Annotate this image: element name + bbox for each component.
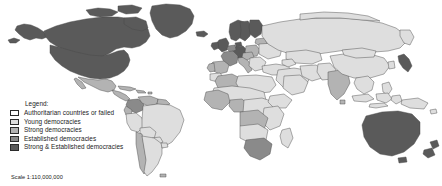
legend-item-established-democracies: Established democracies xyxy=(10,135,160,144)
legend-item-authoritarian: Authoritarian countries or failed xyxy=(10,109,160,118)
region-horn-of-africa xyxy=(268,94,292,108)
region-new-zealand-south xyxy=(423,148,435,158)
legend-swatch-established-democracies xyxy=(10,136,19,142)
legend-label-strong-democracies: Strong democracies xyxy=(24,126,82,135)
legend-label-authoritarian: Authoritarian countries or failed xyxy=(24,109,114,118)
legend-label-strong-established-democracies: Strong & Established democracies xyxy=(24,143,123,152)
region-madagascar xyxy=(280,128,293,148)
region-portugal xyxy=(207,63,215,72)
legend-title: Legend: xyxy=(25,100,160,108)
region-greenland xyxy=(150,4,194,38)
region-papua-new-guinea xyxy=(401,98,428,109)
legend-label-established-democracies: Established democracies xyxy=(24,135,96,144)
region-indonesia-sulawesi xyxy=(391,95,402,104)
world-map-graphic xyxy=(0,0,442,186)
legend-swatch-young-democracies xyxy=(10,119,19,125)
region-alaska xyxy=(15,24,47,40)
region-hispaniola xyxy=(136,90,146,93)
region-finland xyxy=(249,20,263,38)
region-new-zealand-north xyxy=(430,140,439,149)
region-south-africa xyxy=(244,138,272,160)
legend-item-strong-democracies: Strong democracies xyxy=(10,126,160,135)
region-indonesia-sumatra xyxy=(352,94,374,102)
region-uruguay xyxy=(161,143,168,148)
legend-item-young-democracies: Young democracies xyxy=(10,118,160,127)
region-fiji-pacific xyxy=(430,109,437,114)
map-legend: Legend: Authoritarian countries or faile… xyxy=(10,100,160,152)
region-korea xyxy=(388,61,395,69)
region-australia xyxy=(362,111,420,156)
region-asia xyxy=(262,12,414,104)
region-aleutians xyxy=(8,38,20,43)
region-canada-arctic-2 xyxy=(118,5,142,14)
region-japan xyxy=(398,54,412,72)
region-west-africa xyxy=(204,90,230,110)
region-sri-lanka xyxy=(340,100,345,104)
world-map-figure: Legend: Authoritarian countries or faile… xyxy=(0,0,442,186)
region-indonesia-borneo xyxy=(376,93,392,103)
map-scale: Scale 1:110,000,000 xyxy=(11,165,63,183)
region-iceland xyxy=(196,31,208,37)
region-falklands xyxy=(160,174,166,177)
region-africa xyxy=(204,73,293,160)
legend-swatch-authoritarian xyxy=(10,110,19,116)
region-russia xyxy=(262,18,406,55)
legend-item-strong-established-democracies: Strong & Established democracies xyxy=(10,143,160,152)
region-united-kingdom xyxy=(217,38,229,52)
region-tasmania xyxy=(398,157,407,163)
region-ireland xyxy=(211,42,219,50)
region-canada-arctic-1 xyxy=(86,8,118,17)
legend-swatch-strong-established-democracies xyxy=(10,144,19,150)
region-indonesia-java xyxy=(369,103,388,108)
legend-swatch-strong-democracies xyxy=(10,127,19,133)
scale-text: Scale 1:110,000,000 xyxy=(11,174,63,180)
legend-label-young-democracies: Young democracies xyxy=(24,118,81,127)
region-north-america xyxy=(8,5,152,101)
region-cuba xyxy=(118,86,136,91)
region-puerto-rico xyxy=(148,92,152,94)
region-oceania xyxy=(352,93,439,163)
region-southeast-asia xyxy=(354,76,374,94)
